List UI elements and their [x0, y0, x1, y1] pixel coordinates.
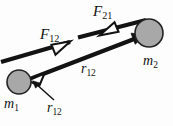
separation-mid-label: r12: [81, 62, 96, 78]
r12-callout-leader: [33, 81, 55, 100]
separation-mid-subscript: 12: [86, 68, 95, 78]
mass-2-label: m2: [143, 54, 158, 70]
force-12-label: F12: [40, 27, 59, 44]
callout-leader-shaft: [36, 84, 55, 101]
mass-2-body: [135, 19, 163, 47]
mass-2-circle: [135, 19, 163, 47]
force-21-arrow: [100, 22, 119, 35]
force-12-symbol: F: [40, 26, 49, 42]
mass-2-subscript: 2: [153, 60, 158, 70]
separation-callout-label: r12: [47, 101, 62, 117]
mass-2-symbol: m: [143, 53, 153, 68]
mass-1-circle: [7, 70, 31, 94]
mass-1-label: m1: [4, 97, 19, 113]
mass-1-symbol: m: [4, 96, 14, 111]
separation-callout-subscript: 12: [52, 107, 61, 117]
mass-1-body: [7, 70, 31, 94]
force-21-label: F21: [93, 4, 112, 21]
force-21-subscript: 21: [102, 10, 112, 21]
force-21-arrowhead: [100, 22, 119, 35]
physics-figure: F12 F21 r12 r12 m1 m2: [0, 0, 173, 126]
force-21-symbol: F: [93, 3, 102, 19]
force-12-subscript: 12: [49, 33, 59, 44]
mass-1-subscript: 1: [14, 103, 19, 113]
